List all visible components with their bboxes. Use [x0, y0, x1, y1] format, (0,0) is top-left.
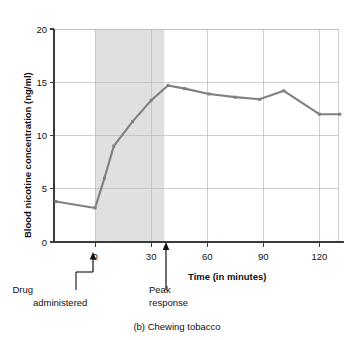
chart-figure: 05101520 0306090120 Blood nicotine conce…: [0, 0, 354, 340]
x-tick-label: 60: [202, 251, 213, 262]
data-point-marker: [54, 200, 57, 203]
data-point-marker: [103, 177, 106, 180]
data-point-marker: [131, 120, 134, 123]
data-point-marker: [338, 113, 341, 116]
data-point-marker: [318, 113, 321, 116]
nicotine-concentration-line-chart: 05101520 0306090120 Blood nicotine conce…: [0, 0, 354, 340]
data-point-marker: [234, 96, 237, 99]
drug-annotation-line2: administered: [33, 297, 87, 308]
data-point-marker: [183, 87, 186, 90]
y-axis-title: Blood nicotine concentration (ng/ml): [22, 72, 33, 238]
data-point-marker: [166, 84, 169, 87]
data-point-marker: [282, 89, 285, 92]
y-tick-label: 5: [42, 183, 47, 194]
figure-caption: (b) Chewing tobacco: [133, 321, 220, 332]
y-tick-labels-group: 05101520: [36, 24, 47, 248]
drug-administered-annotation: Drug administered: [12, 252, 96, 308]
x-tick-label: 30: [146, 251, 157, 262]
y-tick-label: 20: [36, 24, 47, 35]
x-axis-title: Time (in minutes): [188, 271, 266, 282]
y-tick-label: 0: [42, 237, 47, 248]
drug-annotation-line1: Drug: [12, 284, 33, 295]
peak-annotation-line2: response: [149, 297, 188, 308]
x-tick-labels-group: 0306090120: [92, 251, 327, 262]
data-point-marker: [258, 98, 261, 101]
x-tick-label: 120: [311, 251, 327, 262]
y-tick-label: 15: [36, 77, 47, 88]
peak-annotation-line1: Peak: [149, 284, 171, 295]
data-point-marker: [112, 145, 115, 148]
peak-arrow-head: [163, 242, 170, 250]
data-point-marker: [150, 99, 153, 102]
tickmarks-group: [50, 29, 319, 247]
x-tick-label: 90: [258, 251, 269, 262]
y-tick-label: 10: [36, 130, 47, 141]
data-point-marker: [208, 92, 211, 95]
data-point-marker: [94, 206, 97, 209]
